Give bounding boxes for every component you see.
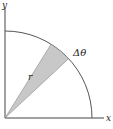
angle-label: Δθ bbox=[72, 47, 86, 58]
sector-wedge bbox=[5, 44, 69, 118]
y-axis-label: y bbox=[1, 0, 8, 10]
x-axis-label: x bbox=[106, 113, 111, 123]
radius-label: r bbox=[28, 72, 33, 82]
polar-sector-diagram: y x Δθ r bbox=[0, 0, 113, 129]
